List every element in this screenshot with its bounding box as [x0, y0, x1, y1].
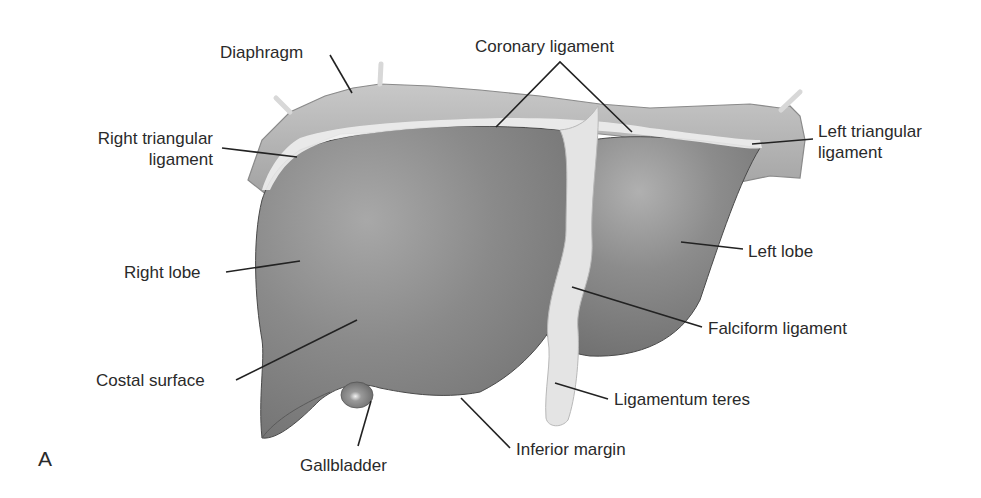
label-coronary-ligament: Coronary ligament [475, 36, 614, 57]
label-right-triangular-line1: Right triangular [70, 128, 213, 149]
label-right-triangular-ligament: Right triangular ligament [70, 128, 213, 170]
leader-inferior-margin [461, 398, 510, 448]
label-costal-surface: Costal surface [96, 370, 205, 391]
right-lobe-shape [256, 126, 574, 438]
label-gallbladder: Gallbladder [300, 455, 387, 476]
label-diaphragm: Diaphragm [220, 42, 303, 63]
liver-anatomy-figure: Diaphragm Coronary ligament Right triang… [0, 0, 981, 498]
label-right-lobe: Right lobe [124, 262, 201, 283]
label-left-triangular-line2: ligament [818, 142, 922, 163]
label-falciform-ligament: Falciform ligament [708, 318, 847, 339]
label-right-triangular-line2: ligament [70, 149, 213, 170]
label-left-triangular-ligament: Left triangular ligament [818, 121, 922, 163]
label-left-triangular-line1: Left triangular [818, 121, 922, 142]
panel-letter: A [38, 447, 52, 471]
label-left-lobe: Left lobe [748, 241, 813, 262]
leader-diaphragm [330, 55, 352, 93]
label-inferior-margin: Inferior margin [516, 439, 626, 460]
label-ligamentum-teres: Ligamentum teres [614, 389, 750, 410]
liver-illustration [0, 0, 981, 498]
gallbladder-shape [341, 382, 373, 408]
